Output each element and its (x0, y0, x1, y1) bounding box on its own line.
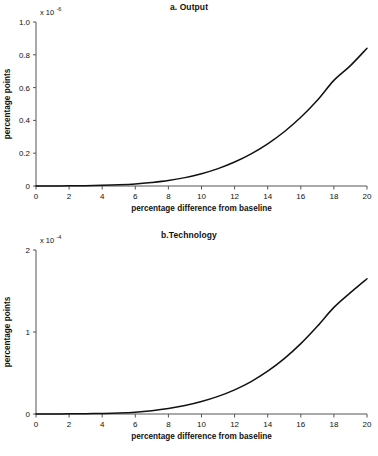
y-axis-multiplier-b: x 10-4 (40, 234, 61, 245)
x-tick-label-b-4: 8 (166, 420, 171, 429)
y-tick-label-b-2: 2 (26, 246, 31, 255)
x-tick-label-a-3: 6 (133, 192, 138, 201)
x-tick-label-a-2: 4 (100, 192, 105, 201)
x-tick-label-a-1: 2 (67, 192, 72, 201)
x-tick-label-a-6: 12 (230, 192, 239, 201)
x-tick-label-b-2: 4 (100, 420, 105, 429)
x-tick-label-a-10: 20 (363, 192, 372, 201)
data-curve-technology (36, 279, 367, 414)
svg-text:-6: -6 (56, 6, 61, 12)
y-tick-label-b-1: 1 (26, 328, 31, 337)
chart-panel-output: a. Output 00.20.40.60.81.002468101214161… (0, 0, 378, 228)
x-tick-label-b-10: 20 (363, 420, 372, 429)
x-tick-label-b-9: 18 (329, 420, 338, 429)
x-tick-label-b-3: 6 (133, 420, 138, 429)
x-tick-label-a-9: 18 (329, 192, 338, 201)
chart-plot-a: 00.20.40.60.81.002468101214161820x 10-6p… (0, 0, 378, 228)
x-tick-label-a-4: 8 (166, 192, 171, 201)
svg-text:x 10: x 10 (40, 236, 54, 245)
y-tick-label-a-2: 0.4 (19, 116, 31, 125)
y-tick-label-a-1: 0.2 (19, 149, 31, 158)
x-axis-title-a: percentage difference from baseline (131, 204, 272, 213)
x-tick-label-a-0: 0 (34, 192, 39, 201)
chart-plot-b: 01202468101214161820x 10-4percentage dif… (0, 228, 378, 456)
y-tick-label-b-0: 0 (26, 410, 31, 419)
svg-text:-4: -4 (56, 234, 61, 240)
chart-panel-technology: b.Technology 01202468101214161820x 10-4p… (0, 228, 378, 456)
x-tick-label-b-0: 0 (34, 420, 39, 429)
y-tick-label-a-4: 0.8 (19, 51, 31, 60)
y-axis-multiplier-a: x 10-6 (40, 6, 61, 17)
x-tick-label-b-7: 14 (263, 420, 272, 429)
y-tick-label-a-0: 0 (26, 182, 31, 191)
x-tick-label-b-1: 2 (67, 420, 72, 429)
x-tick-label-a-5: 10 (197, 192, 206, 201)
x-tick-label-a-7: 14 (263, 192, 272, 201)
y-axis-title-a: percentage points (3, 68, 12, 139)
x-tick-label-b-8: 16 (296, 420, 305, 429)
svg-text:x 10: x 10 (40, 8, 54, 17)
y-tick-label-a-3: 0.6 (19, 84, 31, 93)
y-axis-title-b: percentage points (3, 296, 12, 367)
figure-container: a. Output 00.20.40.60.81.002468101214161… (0, 0, 378, 456)
x-tick-label-b-5: 10 (197, 420, 206, 429)
data-curve-output (36, 48, 367, 186)
x-tick-label-a-8: 16 (296, 192, 305, 201)
x-tick-label-b-6: 12 (230, 420, 239, 429)
y-tick-label-a-5: 1.0 (19, 18, 31, 27)
x-axis-title-b: percentage difference from baseline (131, 432, 272, 441)
